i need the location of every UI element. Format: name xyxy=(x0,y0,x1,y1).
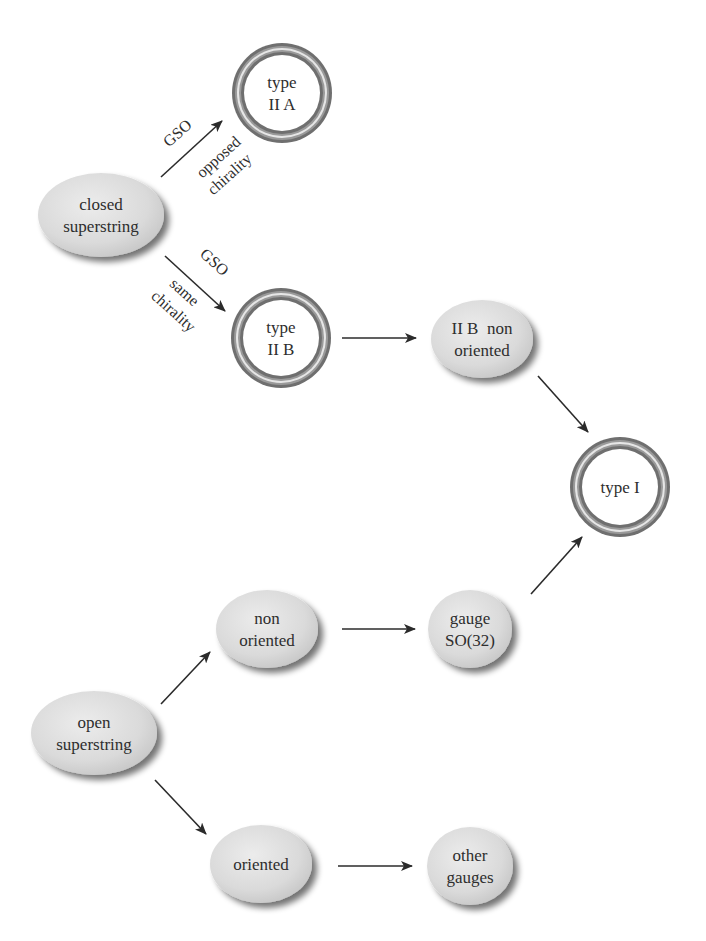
node-label: non xyxy=(254,609,280,628)
double-ring-node-shape xyxy=(231,288,331,388)
node-label: other xyxy=(453,846,488,865)
node-gauge-SO32: gaugeSO(32) xyxy=(428,590,512,668)
double-ring-node-shape xyxy=(232,43,332,143)
node-label: open xyxy=(77,713,111,732)
node-label: oriented xyxy=(233,855,289,874)
edge-IIB-non-oriented-to-type-I xyxy=(538,376,588,432)
node-label: type I xyxy=(600,478,640,497)
nodes-layer: closedsuperstringtypeII AtypeII BII B no… xyxy=(31,43,670,905)
node-type-IIA: typeII A xyxy=(232,43,332,143)
node-label: superstring xyxy=(56,735,132,754)
node-label: type xyxy=(267,73,296,92)
node-label: closed xyxy=(79,195,123,214)
ellipse-node-shape xyxy=(427,827,513,905)
node-label: gauge xyxy=(450,609,491,628)
node-label: oriented xyxy=(454,341,510,360)
edge-label: GSO xyxy=(160,116,195,150)
edge-open-superstring-to-oriented xyxy=(155,780,206,834)
node-label: II A xyxy=(269,95,297,114)
arrow-icon xyxy=(538,376,588,432)
node-label: SO(32) xyxy=(445,631,495,650)
node-label: II B xyxy=(268,340,295,359)
node-oriented: oriented xyxy=(210,825,312,903)
node-label: oriented xyxy=(239,631,295,650)
node-other-gauges: othergauges xyxy=(427,827,513,905)
edge-label: GSO xyxy=(197,245,232,279)
arrow-icon xyxy=(161,652,210,704)
node-non-oriented: nonoriented xyxy=(216,590,318,668)
node-label: superstring xyxy=(63,217,139,236)
ellipse-node-shape xyxy=(38,173,164,257)
ellipse-node-shape xyxy=(216,590,318,668)
ellipse-node-shape xyxy=(431,300,533,378)
edges-layer: GSOopposedchiralityGSOsamechirality xyxy=(148,116,588,866)
edge-closed-superstring-to-type-IIA: GSOopposedchirality xyxy=(160,116,256,199)
ellipse-node-shape xyxy=(31,691,157,775)
node-IIB-non-oriented: II B nonoriented xyxy=(431,300,533,378)
edge-closed-superstring-to-type-IIB: GSOsamechirality xyxy=(148,245,233,336)
node-label: II B non xyxy=(452,319,513,338)
node-type-I: type I xyxy=(570,437,670,537)
edge-open-superstring-to-non-oriented xyxy=(161,652,210,704)
edge-gauge-SO32-to-type-I xyxy=(531,537,582,594)
node-label: type xyxy=(266,318,295,337)
node-open-superstring: opensuperstring xyxy=(31,691,157,775)
ellipse-node-shape xyxy=(428,590,512,668)
node-label: gauges xyxy=(446,868,493,887)
superstring-classification-diagram: GSOopposedchiralityGSOsamechirality clos… xyxy=(0,0,706,941)
node-closed-superstring: closedsuperstring xyxy=(38,173,164,257)
arrow-icon xyxy=(155,780,206,834)
node-type-IIB: typeII B xyxy=(231,288,331,388)
arrow-icon xyxy=(531,537,582,594)
